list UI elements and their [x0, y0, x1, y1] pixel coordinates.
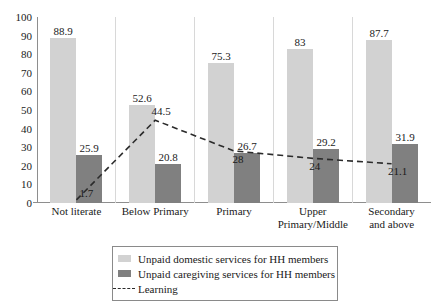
- y-tick-label-30: 30: [0, 142, 32, 153]
- y-tick-label-20: 20: [0, 160, 32, 171]
- y-tick-label-70: 70: [0, 67, 32, 78]
- bar: 52.6: [129, 105, 155, 203]
- chart-legend: Unpaid domestic services for HH members …: [112, 246, 338, 301]
- line-value-label: 28: [233, 153, 244, 165]
- line-value-label: 1.7: [80, 187, 94, 199]
- y-tick-label-60: 60: [0, 86, 32, 97]
- x-axis-label: Upper Primary/Middle: [273, 205, 352, 230]
- plot-area: 1009080706050403020100 88.925.952.620.87…: [37, 17, 431, 203]
- bar-value-label: 83: [295, 36, 306, 48]
- category-column: 88.925.9: [37, 17, 116, 203]
- bar: 88.9: [50, 38, 76, 203]
- x-axis-label: Not literate: [37, 205, 116, 230]
- x-axis-label: Primary: [195, 205, 274, 230]
- bar: 20.8: [155, 164, 181, 203]
- bar-value-label: 87.7: [369, 27, 388, 39]
- bar-value-label: 29.2: [316, 136, 335, 148]
- y-tick-label-90: 90: [0, 30, 32, 41]
- light-gray-square-icon: [118, 255, 131, 262]
- bar-value-label: 88.9: [53, 25, 72, 37]
- x-axis-category-labels: Not literateBelow PrimaryPrimaryUpper Pr…: [37, 205, 431, 230]
- line-value-label: 21.1: [388, 165, 407, 177]
- y-tick-label-40: 40: [0, 123, 32, 134]
- y-tick-label-10: 10: [0, 179, 32, 190]
- bar: 75.3: [208, 63, 234, 203]
- legend-item-learning: Learning: [118, 281, 331, 296]
- y-tick-label-0: 0: [0, 198, 32, 209]
- legend-label-domestic: Unpaid domestic services for HH members: [138, 253, 328, 265]
- x-axis-label: Below Primary: [116, 205, 195, 230]
- bar-value-label: 26.7: [237, 140, 256, 152]
- y-tick-label-100: 100: [0, 12, 32, 23]
- bar-value-label: 31.9: [395, 131, 414, 143]
- y-tick-label-50: 50: [0, 105, 32, 116]
- line-value-label: 24: [309, 160, 320, 172]
- category-columns: 88.925.952.620.875.326.78329.287.731.9: [37, 17, 431, 203]
- bar: 87.7: [366, 40, 392, 203]
- bar-value-label: 52.6: [132, 92, 151, 104]
- bar: 83: [287, 49, 313, 203]
- bar: 29.2: [313, 149, 339, 203]
- y-tick-label-80: 80: [0, 49, 32, 60]
- legend-item-domestic: Unpaid domestic services for HH members: [118, 251, 331, 266]
- bar-value-label: 75.3: [211, 50, 230, 62]
- legend-label-learning: Learning: [138, 283, 178, 295]
- dark-gray-square-icon: [118, 270, 131, 277]
- dashed-line-icon: [113, 288, 135, 289]
- category-column: 75.326.7: [195, 17, 274, 203]
- legend-label-caregiving: Unpaid caregiving services for HH member…: [138, 268, 335, 280]
- line-value-label: 44.5: [152, 105, 171, 117]
- legend-item-caregiving: Unpaid caregiving services for HH member…: [118, 266, 331, 281]
- category-column: 8329.2: [274, 17, 353, 203]
- x-axis-label: Secondary and above: [352, 205, 431, 230]
- bar-value-label: 25.9: [79, 142, 98, 154]
- bar-value-label: 20.8: [158, 151, 177, 163]
- education-unpaid-work-chart: 1009080706050403020100 88.925.952.620.87…: [0, 0, 440, 303]
